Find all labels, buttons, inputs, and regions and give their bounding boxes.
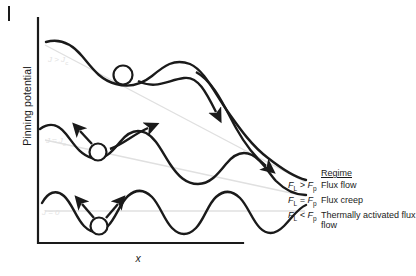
particle-flux-creep <box>90 144 107 161</box>
pinning-potential-figure: Pinning potential x <box>0 0 416 276</box>
particle-zero-current <box>91 218 108 235</box>
arrow-flux-flow-downhill <box>138 78 216 112</box>
legend-condition: FL = Fp <box>288 195 321 209</box>
curve-flux-creep <box>40 125 306 195</box>
vortex-particles <box>90 66 133 235</box>
arrow-flux-flow-downhill-2 <box>196 72 266 166</box>
arrow-flux-creep-forward <box>110 128 148 149</box>
legend-condition: FL > Fp <box>288 180 321 194</box>
flux-creep-current-label: J ≈ Jc <box>46 136 66 147</box>
legend-row: FL = Fp Flux creep <box>288 195 416 209</box>
tilt-reference-lines <box>45 45 305 211</box>
particle-flux-flow <box>114 66 133 85</box>
tilt-line-flux-flow <box>45 45 305 182</box>
legend-row: FL < Fp Thermally activated flux flow <box>288 210 416 230</box>
legend-regime-name: Flux creep <box>321 195 363 205</box>
legend-row: FL > Fp Flux flow <box>288 180 416 194</box>
arrow-flux-creep-backward <box>80 131 92 144</box>
zero-current-label: J = 0 <box>42 208 60 219</box>
curve-flux-flow <box>46 41 306 180</box>
legend-regime-name: Thermally activated flux flow <box>321 210 416 230</box>
legend-condition: FL < Fp <box>288 210 321 224</box>
legend-title: Regime <box>321 168 416 179</box>
legend-regime-name: Flux flow <box>321 180 357 190</box>
legend: Regime FL > Fp Flux flow FL = Fp Flux cr… <box>288 168 416 230</box>
curve-zero-current <box>42 191 306 234</box>
flux-flow-current-label: J > Jc <box>48 55 68 66</box>
